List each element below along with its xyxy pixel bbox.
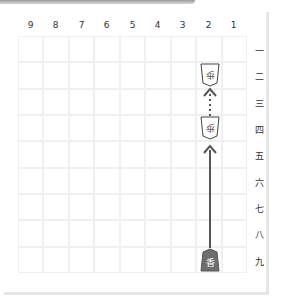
piece-2-2-gote[interactable]: 歩 [200,63,220,87]
col-label-2: 2 [196,20,221,30]
row-label-3: 三 [251,97,267,110]
col-label-9: 9 [18,20,43,30]
piece-label: 歩 [200,122,220,135]
row-label-7: 七 [251,202,267,215]
col-label-7: 7 [69,20,94,30]
col-label-8: 8 [43,20,68,30]
col-label-3: 3 [170,20,195,30]
row-label-8: 八 [251,228,267,241]
row-label-9: 九 [251,255,267,268]
col-label-6: 6 [94,20,119,30]
col-label-4: 4 [145,20,170,30]
row-label-1: 一 [251,44,267,57]
row-label-6: 六 [251,176,267,189]
piece-label: 香 [200,256,220,269]
move-arrows [200,80,220,255]
piece-label: 歩 [200,69,220,82]
piece-2-9-lance-highlighted[interactable]: 香 [200,248,220,272]
row-label-2: 二 [251,70,267,83]
col-label-5: 5 [120,20,145,30]
row-label-4: 四 [251,123,267,136]
piece-2-4-gote[interactable]: 歩 [200,116,220,140]
col-label-1: 1 [221,20,246,30]
row-label-5: 五 [251,149,267,162]
top-shadow-bar [0,0,195,4]
